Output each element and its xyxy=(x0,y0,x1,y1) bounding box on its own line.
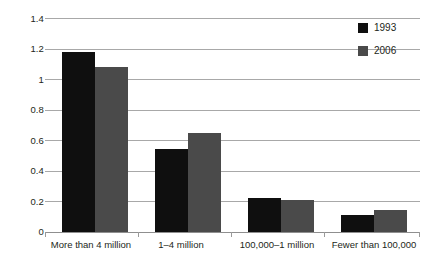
bar-2006-1-4-million xyxy=(188,133,221,232)
y-tick-label-0-8: 0.8 xyxy=(8,105,44,115)
y-tick-label-0: 0 xyxy=(8,227,44,237)
legend-label-1993: 1993 xyxy=(374,23,396,33)
axis-tick-3 xyxy=(324,232,325,237)
bar-2006-more-than-4-million xyxy=(95,67,128,232)
x-axis-label-100000-1-million: 100,000–1 million xyxy=(221,240,333,250)
bar-1993-fewer-than-100000 xyxy=(341,215,374,232)
y-tick-label-0-2: 0.2 xyxy=(8,197,44,207)
bar-1993-more-than-4-million xyxy=(62,52,95,232)
y-tick-label-0-4: 0.4 xyxy=(8,166,44,176)
legend-swatch-1993-icon xyxy=(358,23,368,33)
y-tick-label-1: 1 xyxy=(8,75,44,85)
axis-tick-4 xyxy=(419,232,420,237)
chart-legend: 1993 2006 xyxy=(358,16,396,62)
bar-1993-100000-1-million xyxy=(248,198,281,232)
bar-chart: 1.4 1.2 1 0.8 0.6 0.4 0.2 0 xyxy=(0,0,430,263)
y-tick-label-0-6: 0.6 xyxy=(8,136,44,146)
legend-swatch-2006-icon xyxy=(358,46,368,56)
legend-item-1993: 1993 xyxy=(358,16,396,39)
bar-1993-1-4-million xyxy=(155,149,188,232)
axis-tick-2 xyxy=(231,232,232,237)
x-axis-label-1-4-million: 1–4 million xyxy=(133,240,229,250)
legend-item-2006: 2006 xyxy=(358,39,396,62)
bar-2006-100000-1-million xyxy=(281,200,314,232)
axis-tick-1 xyxy=(138,232,139,237)
legend-label-2006: 2006 xyxy=(374,46,396,56)
bar-2006-fewer-than-100000 xyxy=(374,210,407,232)
axis-baseline xyxy=(45,232,420,233)
axis-tick-0 xyxy=(45,232,46,237)
y-tick-label-1-2: 1.2 xyxy=(8,44,44,54)
x-axis-label-fewer-than-100000: Fewer than 100,000 xyxy=(318,240,430,250)
y-tick-label-1-4: 1.4 xyxy=(8,14,44,24)
